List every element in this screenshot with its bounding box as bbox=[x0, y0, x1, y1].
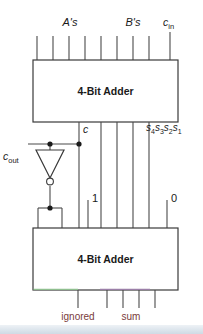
footer-band bbox=[0, 325, 203, 334]
label-sum-output: sum bbox=[122, 311, 141, 322]
circuit-diagram-svg: A's B's cin 4-Bit Adder bbox=[0, 0, 203, 334]
label-ignored-output: ignored bbox=[61, 311, 94, 322]
label-intermediate-carry: c bbox=[83, 123, 89, 135]
not-gate-inverter bbox=[36, 150, 64, 185]
top-input-wires bbox=[37, 32, 170, 60]
circuit-diagram-canvas: A's B's cin 4-Bit Adder bbox=[0, 0, 203, 334]
junction-dot-inverter-out bbox=[47, 205, 52, 210]
label-carry-in: cin bbox=[163, 16, 174, 31]
bottom-output-wires bbox=[78, 290, 155, 308]
bottom-adder-label: 4-Bit Adder bbox=[77, 253, 133, 265]
junction-dot-carry-left bbox=[47, 141, 52, 146]
top-adder-label: 4-Bit Adder bbox=[77, 85, 133, 97]
label-sum-bus: s4s3s2s1 bbox=[146, 122, 182, 135]
label-carry-out: cout bbox=[3, 150, 20, 165]
inverter-triangle-icon bbox=[36, 150, 64, 178]
junction-dot-carry-right bbox=[76, 141, 81, 146]
label-const-zero: 0 bbox=[171, 192, 177, 204]
label-b-inputs: B's bbox=[126, 16, 141, 28]
label-const-one: 1 bbox=[92, 192, 98, 204]
label-a-inputs: A's bbox=[62, 16, 78, 28]
inverter-bubble-icon bbox=[47, 178, 54, 185]
